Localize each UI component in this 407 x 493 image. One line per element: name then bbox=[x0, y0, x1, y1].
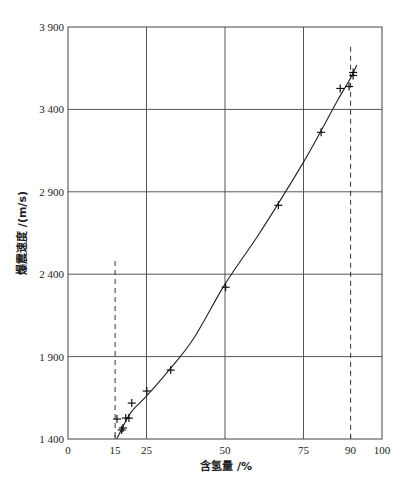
plus-marker bbox=[222, 283, 230, 291]
plus-marker bbox=[143, 387, 151, 395]
plus-marker bbox=[119, 424, 127, 432]
x-tick-label: 75 bbox=[298, 444, 310, 456]
x-axis-ticks: 01525507590100 bbox=[65, 435, 391, 456]
y-tick-label: 3 400 bbox=[39, 103, 64, 115]
plus-marker bbox=[167, 366, 175, 374]
x-tick-label: 90 bbox=[345, 444, 357, 456]
chart: 01525507590100 1 4001 9002 4002 9003 400… bbox=[0, 0, 407, 493]
gridlines bbox=[68, 27, 382, 439]
reference-lines bbox=[115, 47, 351, 439]
x-tick-label: 15 bbox=[110, 444, 122, 456]
y-tick-label: 2 900 bbox=[39, 186, 64, 198]
fit-curve bbox=[117, 65, 357, 439]
y-tick-label: 3 900 bbox=[39, 21, 64, 33]
plus-marker bbox=[128, 399, 136, 407]
x-axis-label: 含氢量 /% bbox=[199, 459, 252, 473]
y-tick-label: 2 400 bbox=[39, 268, 64, 280]
y-axis-ticks: 1 4001 9002 4002 9003 4003 900 bbox=[39, 21, 64, 445]
y-tick-label: 1 900 bbox=[39, 351, 64, 363]
x-tick-label: 100 bbox=[374, 444, 391, 456]
y-axis-label: 爆震速度 /(m/s) bbox=[15, 191, 29, 275]
data-markers bbox=[113, 68, 357, 433]
plus-marker bbox=[118, 426, 126, 434]
plus-marker bbox=[345, 82, 353, 90]
plus-marker bbox=[113, 415, 121, 423]
x-tick-label: 50 bbox=[220, 444, 232, 456]
y-tick-label: 1 400 bbox=[39, 433, 64, 445]
x-tick-label: 25 bbox=[141, 444, 153, 456]
x-tick-label: 0 bbox=[65, 444, 71, 456]
